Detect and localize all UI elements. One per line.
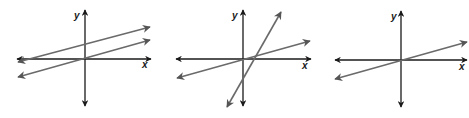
coordinate-plane-2: xy	[176, 10, 311, 107]
x-axis-label: x	[141, 59, 148, 70]
y-axis-label: y	[73, 10, 80, 21]
coordinate-plane-1: xy	[17, 10, 151, 106]
graphs-canvas: xyxyxy	[0, 0, 469, 118]
linear-equation-line-1	[18, 27, 150, 62]
y-axis-label: y	[390, 11, 397, 22]
x-axis-label: x	[458, 61, 465, 72]
y-axis-label: y	[231, 10, 238, 21]
x-axis-label: x	[301, 60, 308, 71]
coordinate-plane-3: xy	[335, 11, 467, 107]
